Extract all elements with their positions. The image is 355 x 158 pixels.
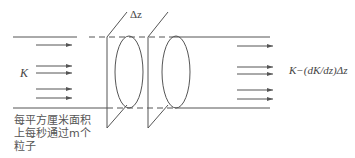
incident-flux-label: K bbox=[20, 66, 28, 81]
slab-plane-2 bbox=[148, 12, 168, 128]
caption-line-2: 上每秒通过m个 bbox=[14, 127, 91, 140]
caption: 每平方厘米面积 上每秒通过m个 粒子 bbox=[14, 114, 91, 153]
caption-line-3: 粒子 bbox=[14, 140, 91, 153]
cross-section-ellipse-2 bbox=[162, 36, 190, 108]
transmitted-flux-label: K−(dK/dz)Δz bbox=[289, 64, 348, 76]
caption-line-1: 每平方厘米面积 bbox=[14, 114, 91, 127]
incident-arrows bbox=[36, 45, 72, 98]
transmitted-arrows bbox=[237, 46, 273, 99]
slab-thickness-label: Δz bbox=[130, 8, 142, 20]
cross-section-ellipse-1 bbox=[115, 36, 143, 108]
slab-plane-1 bbox=[107, 12, 127, 128]
